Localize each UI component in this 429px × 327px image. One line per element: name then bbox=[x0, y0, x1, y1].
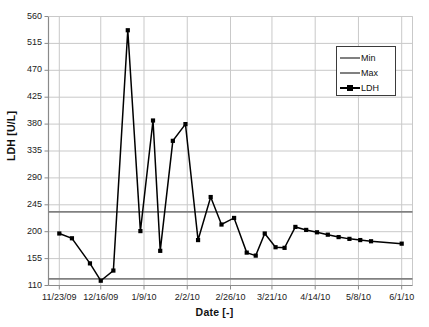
data-point-marker bbox=[254, 254, 258, 258]
y-tick-label: 155 bbox=[8, 253, 42, 263]
legend-item-max[interactable]: Max bbox=[340, 66, 378, 80]
y-tick-label: 560 bbox=[8, 11, 42, 21]
y-tick-label: 515 bbox=[8, 37, 42, 47]
data-point-marker bbox=[326, 233, 330, 237]
data-point-marker bbox=[358, 238, 362, 242]
x-tick-label: 6/1/10 bbox=[369, 292, 429, 302]
data-point-marker bbox=[111, 268, 115, 272]
legend-swatch-ldh-icon bbox=[340, 82, 360, 94]
y-tick-label: 335 bbox=[8, 145, 42, 155]
data-point-marker bbox=[88, 261, 92, 265]
data-point-marker bbox=[347, 237, 351, 241]
y-tick-label: 470 bbox=[8, 64, 42, 74]
chart-legend: MinMaxLDH bbox=[336, 46, 396, 96]
data-point-marker bbox=[57, 231, 61, 235]
data-point-marker bbox=[282, 246, 286, 250]
legend-label: Min bbox=[361, 53, 376, 63]
y-tick-label: 380 bbox=[8, 118, 42, 128]
y-tick-label: 110 bbox=[8, 280, 42, 290]
data-point-marker bbox=[369, 239, 373, 243]
data-point-marker bbox=[304, 228, 308, 232]
data-point-marker bbox=[293, 225, 297, 229]
legend-item-ldh[interactable]: LDH bbox=[340, 81, 379, 95]
y-tick-label: 245 bbox=[8, 199, 42, 209]
legend-swatch-max-icon bbox=[340, 67, 360, 79]
y-tick-label: 290 bbox=[8, 172, 42, 182]
legend-item-min[interactable]: Min bbox=[340, 51, 376, 65]
data-point-marker bbox=[219, 222, 223, 226]
legend-label: Max bbox=[361, 68, 378, 78]
data-point-marker bbox=[209, 195, 213, 199]
data-point-marker bbox=[70, 236, 74, 240]
legend-line-icon bbox=[340, 57, 360, 59]
legend-marker-icon bbox=[347, 85, 353, 91]
data-point-marker bbox=[337, 235, 341, 239]
y-tick-label: 425 bbox=[8, 91, 42, 101]
data-point-marker bbox=[273, 245, 277, 249]
y-tick-label: 200 bbox=[8, 226, 42, 236]
data-point-marker bbox=[138, 229, 142, 233]
data-point-marker bbox=[158, 249, 162, 253]
data-point-marker bbox=[196, 238, 200, 242]
ldh-time-series-chart: LDH [U/L] Date [-] 110155200245290335380… bbox=[0, 0, 429, 327]
data-point-marker bbox=[315, 230, 319, 234]
legend-line-icon bbox=[340, 72, 360, 74]
data-point-marker bbox=[151, 118, 155, 122]
data-point-marker bbox=[126, 28, 130, 32]
legend-swatch-min-icon bbox=[340, 52, 360, 64]
data-point-marker bbox=[171, 139, 175, 143]
data-point-marker bbox=[232, 216, 236, 220]
legend-label: LDH bbox=[361, 83, 379, 93]
data-point-marker bbox=[245, 251, 249, 255]
data-point-marker bbox=[263, 231, 267, 235]
data-point-marker bbox=[99, 279, 103, 283]
data-point-marker bbox=[183, 122, 187, 126]
data-point-marker bbox=[400, 242, 404, 246]
